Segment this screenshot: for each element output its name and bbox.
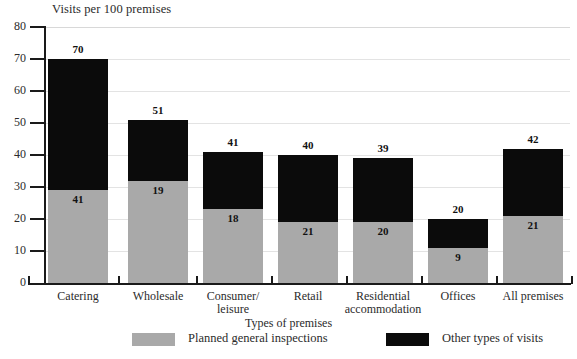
x-tick-mark-1 (196, 276, 198, 284)
legend-label: Planned general inspections (188, 331, 328, 346)
x-tick-mark-5 (496, 276, 498, 284)
bar-total-label: 41 (203, 136, 263, 148)
bar-total-label: 42 (503, 133, 563, 145)
bar-segment-planned-inspections[interactable] (128, 181, 188, 283)
bar-group[interactable] (128, 120, 188, 283)
y-tick-label-0: 0 (0, 275, 26, 290)
x-axis-label-6: All premises (481, 290, 577, 303)
gridline-80 (45, 27, 570, 28)
y-tick-label-80: 80 (0, 19, 26, 34)
chart-figure: Visits per 100 premises 0102030405060708… (0, 0, 577, 359)
bar-inner-label: 21 (278, 225, 338, 237)
bar-inner-label: 41 (48, 193, 108, 205)
chart-title: Visits per 100 premises (52, 2, 171, 17)
bar-segment-other-visits[interactable] (503, 149, 563, 216)
y-tick-mark-80 (30, 26, 45, 28)
y-tick-mark-20 (30, 218, 45, 220)
x-tick-mark-edge-1 (571, 276, 573, 284)
bar-inner-label: 18 (203, 212, 263, 224)
y-tick-mark-40 (30, 154, 45, 156)
x-tick-mark-4 (421, 276, 423, 284)
y-tick-label-10: 10 (0, 243, 26, 258)
bar-inner-label: 21 (503, 219, 563, 231)
bar-group[interactable] (278, 155, 338, 283)
bar-inner-label: 20 (353, 225, 413, 237)
bar-inner-label: 19 (128, 184, 188, 196)
gridline-50 (45, 123, 570, 124)
y-tick-label-20: 20 (0, 211, 26, 226)
gridline-60 (45, 91, 570, 92)
bar-total-label: 70 (48, 43, 108, 55)
legend-swatch-black (386, 333, 429, 346)
bar-segment-other-visits[interactable] (203, 152, 263, 210)
y-tick-mark-70 (30, 58, 45, 60)
bar-segment-other-visits[interactable] (128, 120, 188, 181)
x-tick-mark-3 (346, 276, 348, 284)
chart-legend: Planned general inspectionsOther types o… (0, 331, 577, 353)
y-tick-mark-60 (30, 90, 45, 92)
bar-segment-other-visits[interactable] (48, 59, 108, 190)
bar-total-label: 39 (353, 142, 413, 154)
x-tick-mark-2 (271, 276, 273, 284)
bar-inner-label: 9 (428, 251, 488, 263)
bar-segment-other-visits[interactable] (278, 155, 338, 222)
bar-segment-other-visits[interactable] (353, 158, 413, 222)
x-axis-label-line: leisure (181, 303, 285, 316)
y-tick-label-40: 40 (0, 147, 26, 162)
y-tick-mark-10 (30, 250, 45, 252)
x-axis-label-line: accommodation (331, 303, 435, 316)
x-axis-line (28, 283, 571, 285)
y-tick-mark-30 (30, 186, 45, 188)
x-tick-mark-0 (118, 276, 120, 284)
x-tick-mark-edge-0 (28, 276, 30, 284)
y-tick-mark-50 (30, 122, 45, 124)
y-tick-label-30: 30 (0, 179, 26, 194)
bar-group[interactable] (353, 158, 413, 283)
y-tick-label-60: 60 (0, 83, 26, 98)
bar-group[interactable] (48, 59, 108, 283)
y-tick-label-70: 70 (0, 51, 26, 66)
legend-swatch-gray (132, 333, 175, 346)
bar-total-label: 51 (128, 104, 188, 116)
bar-total-label: 20 (428, 203, 488, 215)
gridline-70 (45, 59, 570, 60)
bar-group[interactable] (503, 149, 563, 283)
bar-segment-other-visits[interactable] (428, 219, 488, 248)
x-axis-label-line: All premises (481, 290, 577, 303)
y-tick-label-50: 50 (0, 115, 26, 130)
bar-total-label: 40 (278, 139, 338, 151)
legend-label: Other types of visits (442, 331, 543, 346)
x-axis-caption: Types of premises (0, 316, 577, 331)
